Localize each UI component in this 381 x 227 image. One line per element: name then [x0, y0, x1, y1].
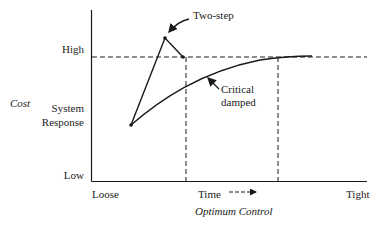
critical-damped-arrow-icon — [208, 78, 219, 89]
two-step-curve — [131, 38, 183, 125]
y-tick-high: High — [62, 43, 85, 55]
system-response-label-line2: Response — [42, 116, 84, 128]
two-step-peak-point — [163, 36, 167, 40]
start-point — [129, 123, 133, 127]
x-label-tight: Tight — [346, 188, 369, 200]
diagram-canvas: High Cost System Response Low Loose Time… — [0, 0, 381, 227]
two-step-arrow-icon — [169, 19, 189, 32]
two-step-label: Two-step — [193, 9, 234, 21]
x-label-time: Time — [198, 188, 221, 200]
x-label-loose: Loose — [92, 188, 119, 200]
critical-damped-label-line1: Critical — [221, 83, 254, 95]
two-step-settle-point — [181, 55, 185, 59]
system-response-label-line1: System — [52, 102, 85, 114]
x-axis-subtitle: Optimum Control — [195, 205, 273, 217]
y-axis-title: Cost — [10, 97, 31, 109]
y-tick-low: Low — [64, 169, 84, 181]
critical-damped-label-line2: damped — [221, 96, 256, 108]
